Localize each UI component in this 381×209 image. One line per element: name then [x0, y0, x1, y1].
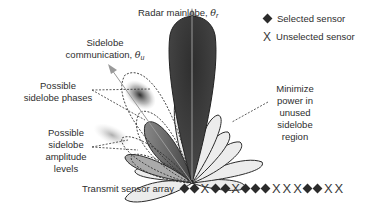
transmit-sensor-array: Transmit sensor array XXXXXXX	[82, 183, 344, 194]
x-icon: X	[263, 32, 271, 42]
selected-sensor-diamond-icon	[251, 184, 261, 194]
legend-selected-label: Selected sensor	[277, 13, 345, 24]
legend-unselected: X Unselected sensor	[263, 31, 355, 42]
amplitude-line1: Possible	[38, 127, 94, 139]
unselected-sensor-x-icon: X	[324, 184, 333, 194]
selected-sensor-diamond-icon	[303, 184, 313, 194]
phases-line1: Possible	[18, 80, 98, 92]
selected-sensor-diamond-icon	[261, 184, 271, 194]
sidelobe-comm-line1: Sidelobe	[55, 37, 155, 49]
selected-sensor-diamond-icon	[220, 184, 230, 194]
selected-sensor-diamond-icon	[190, 184, 200, 194]
sidelobe-comm-line2: communication, θu	[55, 49, 155, 64]
sidelobe-amplitude-label: Possible sidelobe amplitude levels	[38, 127, 94, 175]
phases-line2: sidelobe phases	[18, 92, 98, 104]
minimize-line1: Minimize	[270, 83, 320, 95]
minimize-line2: power in	[270, 95, 320, 107]
selected-sensor-diamond-icon	[313, 184, 323, 194]
theta-subscript: u	[141, 54, 145, 61]
amplitude-line2: sidelobe	[38, 139, 94, 151]
selected-sensor-diamond-icon	[180, 184, 190, 194]
amplitude-line3: amplitude	[38, 151, 94, 163]
mainlobe-label-text: Radar mainlobe,	[138, 7, 210, 18]
unselected-sensor-x-icon: X	[272, 184, 281, 194]
sensor-cells: XXXXXXX	[180, 184, 344, 194]
transmit-array-label: Transmit sensor array	[82, 183, 174, 194]
sidelobe-comm-label: Sidelobe communication, θu	[55, 37, 155, 64]
minimize-line4: sidelobe	[270, 119, 320, 131]
legend-unselected-label: Unselected sensor	[276, 31, 355, 42]
minimize-line5: region	[270, 131, 320, 143]
theta-subscript: r	[216, 12, 218, 19]
minimize-power-label: Minimize power in unused sidelobe region	[270, 83, 320, 143]
unselected-sensor-x-icon: X	[201, 184, 210, 194]
sidelobe-comm-text: communication,	[66, 49, 135, 60]
amplitude-line4: levels	[38, 163, 94, 175]
unselected-sensor-x-icon: X	[231, 184, 240, 194]
unselected-sensor-x-icon: X	[335, 184, 344, 194]
selected-sensor-diamond-icon	[210, 184, 220, 194]
legend-selected: Selected sensor	[263, 13, 345, 24]
sidelobe-phases-label: Possible sidelobe phases	[18, 80, 98, 104]
selected-sensor-diamond-icon	[241, 184, 251, 194]
minimize-line3: unused	[270, 107, 320, 119]
diamond-icon	[263, 14, 273, 24]
unselected-sensor-x-icon: X	[293, 184, 302, 194]
unselected-sensor-x-icon: X	[283, 184, 292, 194]
mainlobe-label: Radar mainlobe, θr	[138, 7, 218, 22]
